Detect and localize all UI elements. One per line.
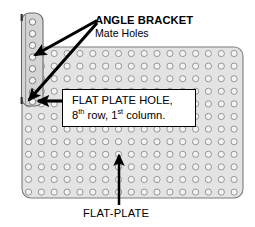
diagram-canvas: ANGLE BRACKET Mate Holes FLAT PLATE HOLE… — [0, 0, 255, 227]
callout-column-word: column. — [123, 109, 165, 121]
flat-plate-label: FLAT-PLATE — [83, 207, 149, 221]
callout-title: FLAT PLATE HOLE, — [72, 94, 173, 106]
flat-plate-hole-callout-box: FLAT PLATE HOLE, 8th row, 1st column. — [62, 89, 196, 127]
mate-holes-label: Mate Holes — [95, 27, 149, 40]
callout-row-word: row, — [84, 109, 111, 121]
angle-bracket-label: ANGLE BRACKET — [95, 14, 193, 28]
callout-detail: 8th row, 1st column. — [72, 109, 165, 121]
